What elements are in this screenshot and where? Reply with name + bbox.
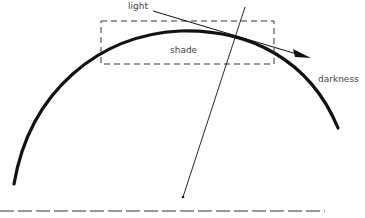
normal-line — [183, 7, 245, 197]
light-label: light — [128, 2, 148, 11]
darkness-label: darkness — [318, 75, 359, 84]
light-ray-arrowhead-icon — [293, 49, 311, 58]
shade-label: shade — [170, 46, 197, 55]
normal-line-endpoint-icon — [182, 196, 185, 199]
diagram-canvas — [0, 0, 365, 218]
